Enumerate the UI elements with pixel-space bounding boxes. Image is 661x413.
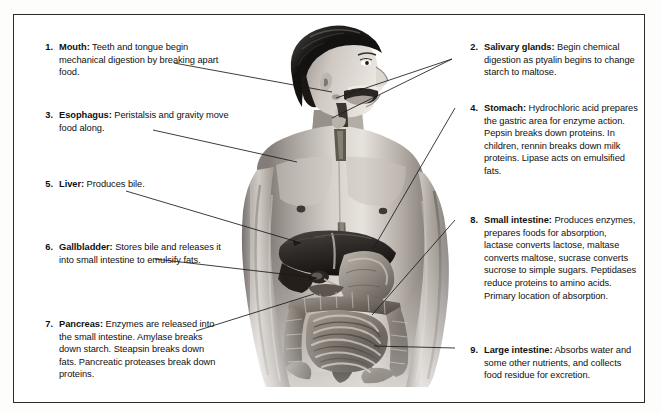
callout-salivary-glands: 2. Salivary glands: Begin chemical diges… [463,41,638,79]
callout-gallbladder: 6. Gallbladder: Stores bile and releases… [38,241,234,266]
callout-small-intestine-term: Small intestine: [484,215,552,225]
callout-large-intestine: 9. Large intestine: Absorbs water and so… [463,344,638,382]
callout-liver: 5. Liver: Produces bile. [38,178,234,191]
callout-liver-text: Produces bile. [84,179,145,189]
callout-stomach-body: Stomach: Hydrochloric acid prepares the … [484,102,638,178]
callout-pancreas: 7. Pancreas: Enzymes are released into t… [38,318,222,381]
leader-large-intestine-line [374,346,455,348]
callout-small-intestine-body: Small intestine: Produces enzymes, prepa… [484,214,638,302]
callout-gallbladder-body: Gallbladder: Stores bile and releases it… [59,241,234,266]
callout-salivary-glands-number: 2. [463,41,478,54]
leader-esophagus-line [153,130,297,162]
callout-gallbladder-number: 6. [38,241,53,254]
callout-mouth-body: Mouth: Teeth and tongue begin mechanical… [59,41,234,79]
leader-stomach-line [373,108,455,249]
callout-salivary-glands-term: Salivary glands: [484,42,555,52]
callout-stomach-text: Hydrochloric acid prepares the gastric a… [484,103,638,176]
arrow-liver [293,240,301,246]
callout-mouth: 1. Mouth: Teeth and tongue begin mechani… [38,41,234,79]
callout-gallbladder-term: Gallbladder: [59,242,113,252]
callout-mouth-number: 1. [38,41,53,54]
leader-small-intestine-line [372,220,455,315]
callout-small-intestine: 8. Small intestine: Produces enzymes, pr… [463,214,638,302]
callout-large-intestine-term: Large intestine: [484,345,552,355]
callout-small-intestine-number: 8. [463,214,478,227]
leader-salivary-b-line [332,59,452,118]
digestive-system-figure: 1. Mouth: Teeth and tongue begin mechani… [13,14,645,403]
callout-esophagus-term: Esophagus: [59,110,112,120]
callout-stomach-number: 4. [463,102,478,115]
callout-large-intestine-body: Large intestine: Absorbs water and some … [484,344,638,382]
leader-liver-line [126,191,301,243]
callout-pancreas-body: Pancreas: Enzymes are released into the … [59,318,222,381]
callout-small-intestine-text: Produces enzymes, prepares foods for abs… [484,215,636,301]
callout-liver-term: Liver: [59,179,84,189]
callout-liver-body: Liver: Produces bile. [59,178,234,191]
callout-mouth-term: Mouth: [59,42,90,52]
arrow-gallbladder [309,276,317,282]
leader-salivary-a-line [336,59,452,98]
callout-pancreas-number: 7. [38,318,53,331]
callout-esophagus: 3. Esophagus: Peristalsis and gravity mo… [38,109,234,134]
callout-salivary-glands-body: Salivary glands: Begin chemical digestio… [484,41,638,79]
callout-esophagus-number: 3. [38,109,53,122]
callout-stomach: 4. Stomach: Hydrochloric acid prepares t… [463,102,638,178]
callout-liver-number: 5. [38,178,53,191]
callout-esophagus-body: Esophagus: Peristalsis and gravity move … [59,109,234,134]
callout-large-intestine-number: 9. [463,344,478,357]
callout-stomach-term: Stomach: [484,103,526,113]
callout-pancreas-term: Pancreas: [59,319,103,329]
